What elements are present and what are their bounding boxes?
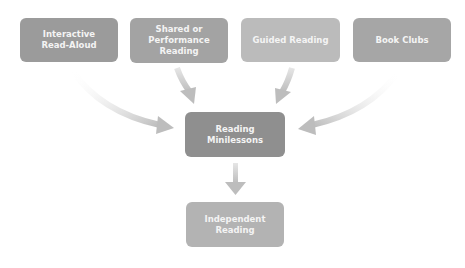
box-label-line: Read-Aloud (41, 40, 96, 51)
box-independent-reading: Independent Reading (186, 202, 284, 247)
arrow-book-clubs-to-minilessons (298, 72, 398, 135)
arrow-read-aloud-to-minilessons (72, 70, 174, 134)
box-label-line: Reading (207, 124, 263, 135)
box-label-line: Reading (205, 225, 266, 236)
box-shared-or-performance-reading: Shared or Performance Reading (130, 18, 228, 63)
box-label-line: Interactive (41, 29, 96, 40)
box-label-line: Book Clubs (375, 35, 428, 46)
box-reading-minilessons: Reading Minilessons (185, 112, 285, 157)
box-label-line: Independent (205, 214, 266, 225)
box-label-line: Minilessons (207, 135, 263, 146)
box-label-line: Shared or (148, 24, 209, 35)
arrow-minilessons-to-independent (225, 163, 246, 195)
box-label-line: Performance (148, 35, 209, 46)
box-label-line: Reading (148, 46, 209, 57)
arrow-shared-to-minilessons (177, 68, 196, 104)
box-interactive-read-aloud: Interactive Read-Aloud (20, 18, 118, 62)
box-guided-reading: Guided Reading (241, 18, 340, 62)
box-book-clubs: Book Clubs (353, 18, 451, 62)
box-label-line: Guided Reading (252, 35, 328, 46)
arrow-guided-to-minilessons (275, 68, 292, 104)
